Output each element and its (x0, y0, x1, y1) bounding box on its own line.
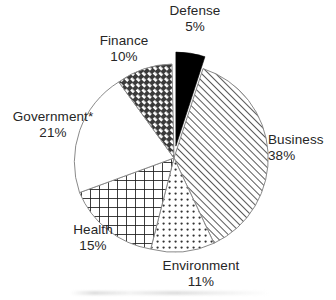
pie-label-government: Government* 21% (0, 109, 108, 141)
caption-smudge (70, 291, 270, 295)
pie-chart: Defense 5% Finance 10% Government* 21% B… (0, 0, 336, 300)
pie-label-business-name: Business (268, 132, 336, 148)
pie-label-government-name: Government* (0, 109, 108, 125)
pie-label-health-percent: 15% (48, 238, 138, 254)
pie-label-defense-name: Defense (150, 3, 240, 19)
pie-label-business-percent: 38% (268, 148, 336, 164)
pie-label-environment: Environment 11% (136, 258, 266, 290)
pie-label-defense: Defense 5% (150, 3, 240, 35)
pie-label-finance-percent: 10% (76, 49, 172, 65)
pie-label-environment-percent: 11% (136, 274, 266, 290)
pie-label-health: Health 15% (48, 222, 138, 254)
pie-label-finance-name: Finance (76, 33, 172, 49)
pie-label-environment-name: Environment (136, 258, 266, 274)
pie-label-government-percent: 21% (0, 125, 108, 141)
pie-label-health-name: Health (48, 222, 138, 238)
pie-label-finance: Finance 10% (76, 33, 172, 65)
pie-label-business: Business 38% (268, 132, 336, 164)
